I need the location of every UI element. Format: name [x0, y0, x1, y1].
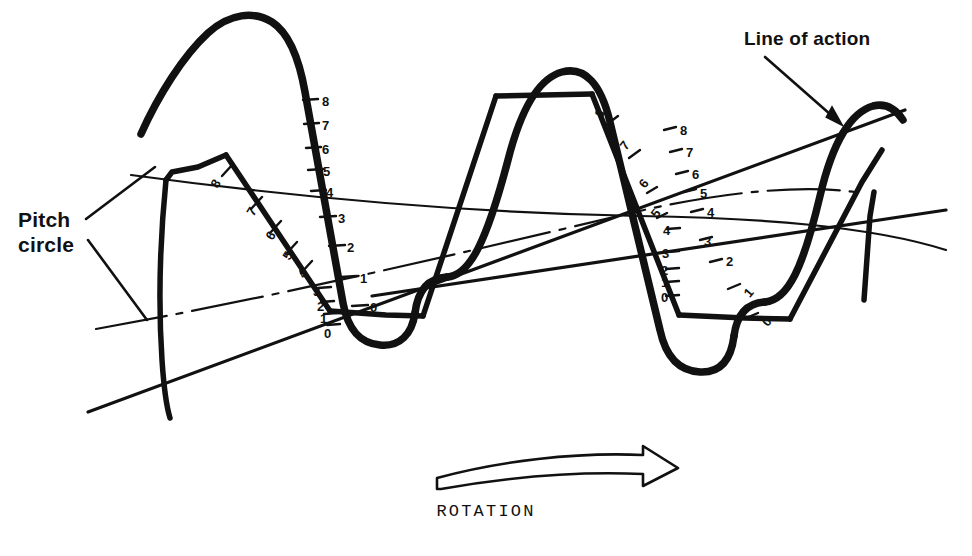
scale-tick-label: 3 — [662, 246, 669, 261]
scale-tick-label: 2 — [347, 240, 354, 255]
scale-tick-label: 3 — [704, 234, 711, 249]
scale-tick-label: 3 — [338, 211, 345, 226]
scale-tick-label: 0 — [370, 300, 377, 315]
tick — [329, 245, 345, 246]
scale-tick-label: 4 — [326, 185, 333, 200]
scale-tick-label: 0 — [324, 326, 331, 341]
scale-tick-label: 7 — [686, 145, 693, 160]
scale-tick-label: 3 — [313, 284, 320, 299]
pitch-circle-label-line1: Pitch — [18, 208, 74, 233]
scale-tick-label: 4 — [707, 205, 714, 220]
rotation-label: ROTATION — [0, 502, 972, 521]
scale-tick-label: 0 — [661, 290, 668, 305]
tick — [327, 324, 340, 325]
pitch-circle-label-line2: circle — [18, 233, 74, 258]
scale-tick-label: 1 — [360, 271, 367, 286]
scale-tick-label: 2 — [726, 254, 733, 269]
scale-tick-label: 6 — [322, 142, 329, 157]
scale-tick-label: 5 — [700, 186, 707, 201]
scale-tick-label: 1 — [320, 311, 327, 326]
tick — [304, 123, 319, 124]
pitch-circle-label: Pitch circle — [18, 208, 74, 258]
scale-tick-label: 7 — [322, 118, 329, 133]
scale-tick-label: 8 — [322, 94, 329, 109]
tick — [352, 305, 368, 306]
line-of-action-label: Line of action — [744, 28, 870, 50]
tick — [311, 190, 326, 191]
tick — [341, 276, 357, 277]
scale-tick-label: 8 — [680, 123, 687, 138]
tick — [303, 99, 318, 100]
scale-tick-label: 5 — [323, 164, 330, 179]
gear-tooth-diagram — [0, 0, 972, 556]
driver-tooth-top-center — [496, 94, 592, 96]
tick — [306, 147, 321, 148]
tick — [308, 169, 323, 170]
scale-tick-label: 6 — [692, 167, 699, 182]
scale-tick-label: 1 — [661, 275, 668, 290]
tick — [320, 216, 336, 217]
scale-tick-label: 4 — [663, 223, 670, 238]
